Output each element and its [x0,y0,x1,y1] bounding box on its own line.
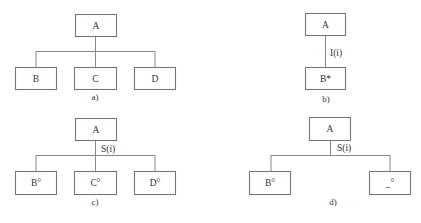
caption-d: d) [329,197,337,207]
caption-a: a) [92,92,99,102]
node-label: D [152,74,159,84]
node-label: D° [150,178,161,188]
node-label: B° [31,178,41,188]
node-label: A [322,20,329,30]
edge-label: S(i) [337,143,351,154]
node-label: C [92,74,98,84]
node-label: A [93,125,100,135]
node-label: _° [385,178,395,188]
caption-b: b) [322,94,330,104]
node-label: C° [90,178,100,188]
edge-label: I(i) [330,48,342,59]
edge-label: S(i) [101,144,115,155]
diagram-c: A S(i) B° C° D° c) [16,119,176,208]
node-label: B* [320,74,331,84]
diagram-a: A B C D a) [16,15,176,103]
node-label: B [33,74,39,84]
diagram-d: A S(i) B° _° d) [250,118,411,208]
diagram-b: A I(i) B* b) [306,14,346,105]
caption-c: c) [92,197,99,207]
node-label: A [93,21,100,31]
node-label: A [327,124,334,134]
node-label: B° [265,178,275,188]
diagram-canvas: A B C D a) A I(i) B* b) A S(i) B° C° D° [0,0,421,223]
